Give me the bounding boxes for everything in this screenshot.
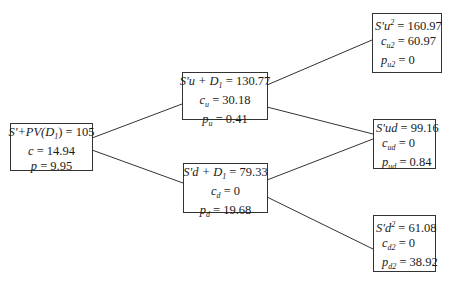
up-price-value: = 130.77	[223, 74, 271, 88]
node-updown: S'ud = 99.16 cud = 0 pud = 0.84	[373, 119, 436, 169]
downdown-price: S'd2 = 61.08	[376, 217, 437, 236]
upup-put-value: = 0	[395, 53, 415, 67]
root-price: S'+PV(D1) = 105	[8, 125, 94, 144]
up-put-value: = 0.41	[213, 112, 248, 126]
updown-call: cud = 0	[376, 136, 415, 155]
updown-call-value: = 0	[396, 136, 416, 150]
up-price: S'u + D1 = 130.77	[180, 74, 271, 93]
updown-put-value: = 0.84	[396, 155, 431, 169]
node-down: S'd + D1 = 79.33 cd = 0 pd = 19.68	[183, 163, 268, 213]
upup-price-label: S'u	[375, 19, 390, 33]
downdown-put: pd2 = 38.92	[376, 255, 438, 274]
root-call-value: = 14.94	[34, 144, 75, 158]
edge-up-upup	[267, 40, 372, 85]
down-call: cd = 0	[211, 184, 240, 203]
up-put: pu = 0.41	[202, 112, 247, 131]
updown-call-sub: ud	[388, 143, 396, 152]
down-call-value: = 0	[221, 184, 241, 198]
downdown-price-value: = 61.08	[395, 221, 436, 235]
root-put-value: = 9.95	[37, 159, 72, 173]
node-up: S'u + D1 = 130.77 cu = 30.18 pu = 0.41	[182, 72, 268, 120]
edge-root-up	[92, 104, 182, 138]
downdown-call-value: = 0	[396, 236, 416, 250]
downdown-price-label: S'd	[376, 221, 391, 235]
updown-price-label: S'ud	[376, 121, 397, 135]
up-call: cu = 30.18	[200, 93, 251, 112]
updown-price-value: = 99.16	[397, 121, 438, 135]
up-call-value: = 30.18	[209, 93, 250, 107]
edge-down-updown	[267, 139, 373, 180]
root-price-value: ) = 105	[58, 125, 94, 139]
upup-price-value: = 160.97	[394, 19, 442, 33]
upup-call: cu2 = 60.97	[375, 34, 436, 53]
upup-call-sub: u2	[387, 41, 395, 50]
upup-call-value: = 60.97	[395, 34, 436, 48]
down-put: pd = 19.68	[200, 203, 252, 222]
root-price-label: S'+PV(D	[8, 125, 54, 139]
edge-up-updown	[267, 107, 373, 134]
up-price-label: S'u + D	[180, 74, 219, 88]
down-price-label: S'd + D	[183, 165, 222, 179]
edge-root-down	[92, 150, 183, 183]
down-price-value: = 79.33	[226, 165, 267, 179]
root-call: c = 14.94	[28, 144, 75, 159]
downdown-put-value: = 38.92	[396, 255, 437, 269]
updown-put: pud = 0.84	[376, 155, 431, 174]
downdown-call: cd2 = 0	[376, 236, 415, 255]
root-put: p = 9.95	[31, 159, 72, 174]
down-put-value: = 19.68	[210, 203, 251, 217]
node-upup: S'u2 = 160.97 cu2 = 60.97 pu2 = 0	[372, 13, 442, 73]
node-root: S'+PV(D1) = 105 c = 14.94 p = 9.95	[10, 123, 93, 171]
updown-price: S'ud = 99.16	[376, 121, 439, 136]
downdown-call-sub: d2	[388, 243, 396, 252]
edge-down-downdown	[267, 197, 373, 249]
upup-price: S'u2 = 160.97	[375, 15, 442, 34]
upup-put: pu2 = 0	[375, 53, 415, 72]
down-price: S'd + D1 = 79.33	[183, 165, 267, 184]
node-downdown: S'd2 = 61.08 cd2 = 0 pd2 = 38.92	[373, 215, 436, 272]
